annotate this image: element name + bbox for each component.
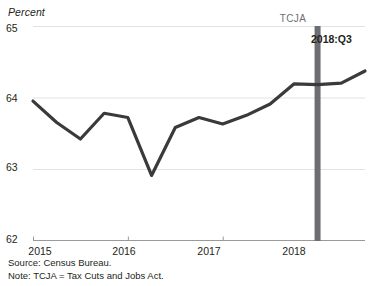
chart-container: Percent 65 64 63 62 2015 2016 2017 2018 … xyxy=(0,0,375,286)
footnotes: Source: Census Bureau. Note: TCJA = Tax … xyxy=(8,257,164,282)
footnote-source: Source: Census Bureau. xyxy=(8,257,164,270)
tcja-annotation-label: TCJA xyxy=(280,13,307,24)
footnote-note: Note: TCJA = Tax Cuts and Jobs Act. xyxy=(8,270,164,283)
x-axis-ticks xyxy=(34,237,319,241)
tcja-vertical-marker xyxy=(315,26,321,241)
endpoint-annotation-label: 2018:Q3 xyxy=(311,33,352,45)
